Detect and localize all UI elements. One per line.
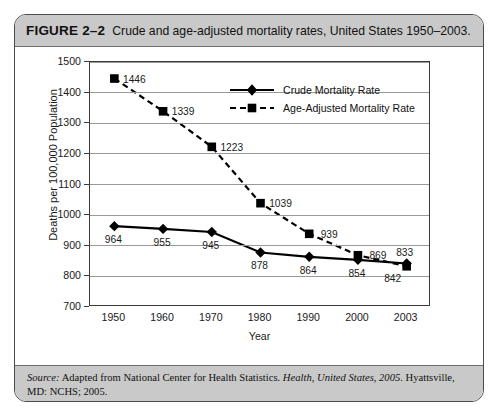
y-axis-tick-label: 1000	[41, 208, 81, 220]
y-axis-tick-mark	[84, 214, 89, 215]
y-axis-tick-label: 1300	[41, 116, 81, 128]
data-point-value-label: 1039	[269, 198, 292, 209]
source-prefix: Source:	[27, 372, 60, 383]
legend-symbol-diamond	[229, 83, 275, 97]
figure-header: FIGURE 2–2 Crude and age-adjusted mortal…	[15, 15, 483, 47]
figure-container: FIGURE 2–2 Crude and age-adjusted mortal…	[14, 14, 484, 402]
y-axis-tick-label: 800	[41, 269, 81, 281]
y-axis-tick-label: 700	[41, 300, 81, 312]
y-axis-tick-label: 900	[41, 239, 81, 251]
data-point-value-label: 833	[396, 247, 413, 258]
data-point-marker	[255, 247, 265, 257]
y-axis-tick-mark	[84, 275, 89, 276]
x-axis-tick-label: 1990	[284, 311, 332, 323]
legend-item: Age-Adjusted Mortality Rate	[229, 101, 415, 115]
gridline	[90, 215, 429, 216]
data-point-marker	[305, 230, 314, 239]
gridline	[90, 153, 429, 154]
data-point-marker	[207, 143, 216, 152]
data-point-marker	[159, 107, 168, 116]
legend-label: Age-Adjusted Mortality Rate	[283, 102, 415, 114]
x-axis-tick-label: 1960	[138, 311, 186, 323]
source-publication-title: Health, United States, 2005	[283, 372, 400, 383]
data-point-value-label: 864	[300, 264, 317, 275]
x-axis-tick-label: 1980	[236, 311, 284, 323]
legend-label: Crude Mortality Rate	[283, 84, 380, 96]
y-axis-tick-mark	[84, 184, 89, 185]
y-axis-tick-mark	[84, 153, 89, 154]
data-point-marker	[256, 199, 265, 208]
x-axis-tick-label: 1950	[89, 311, 137, 323]
data-point-value-label: 945	[202, 239, 219, 250]
figure-caption: Crude and age-adjusted mortality rates, …	[112, 24, 470, 38]
gridline	[90, 184, 429, 185]
data-point-marker	[109, 221, 119, 231]
data-point-value-label: 955	[154, 236, 171, 247]
data-point-value-label: 1446	[123, 73, 146, 84]
x-axis-tick-label: 2000	[333, 311, 381, 323]
data-point-value-label: 964	[105, 234, 122, 245]
data-point-marker	[402, 262, 411, 271]
gridline	[90, 62, 429, 63]
source-text-part1: Adapted from National Center for Health …	[60, 372, 283, 383]
data-point-marker	[354, 251, 363, 260]
data-point-value-label: 878	[251, 260, 268, 271]
data-point-value-label: 939	[321, 228, 338, 239]
figure-source-footer: Source: Adapted from National Center for…	[15, 365, 483, 401]
legend-symbol-square	[229, 101, 275, 115]
data-point-marker	[304, 252, 314, 262]
y-axis-tick-label: 1500	[41, 55, 81, 67]
gridline	[90, 123, 429, 124]
data-point-marker	[207, 227, 217, 237]
x-axis-tick-label: 1970	[187, 311, 235, 323]
legend-item: Crude Mortality Rate	[229, 83, 380, 97]
data-point-marker	[110, 74, 119, 83]
y-axis-tick-mark	[84, 122, 89, 123]
y-axis-tick-mark	[84, 61, 89, 62]
y-axis-tick-label: 1400	[41, 86, 81, 98]
data-point-value-label: 1223	[220, 141, 243, 152]
y-axis-tick-label: 1100	[41, 178, 81, 190]
data-point-value-label: 842	[384, 272, 401, 283]
y-axis-tick-mark	[84, 245, 89, 246]
gridline	[90, 276, 429, 277]
chart-region: Deaths per 100,000 Population Year 70080…	[15, 47, 483, 365]
x-axis-tick-label: 2003	[382, 311, 430, 323]
figure-number-label: FIGURE 2–2	[26, 23, 105, 38]
data-point-marker	[158, 224, 168, 234]
x-axis-title: Year	[89, 330, 430, 342]
y-axis-tick-mark	[84, 306, 89, 307]
y-axis-tick-label: 1200	[41, 147, 81, 159]
data-point-value-label: 869	[369, 250, 386, 261]
gridline	[90, 245, 429, 246]
data-point-value-label: 854	[348, 267, 365, 278]
data-point-value-label: 1339	[172, 106, 195, 117]
y-axis-tick-mark	[84, 92, 89, 93]
